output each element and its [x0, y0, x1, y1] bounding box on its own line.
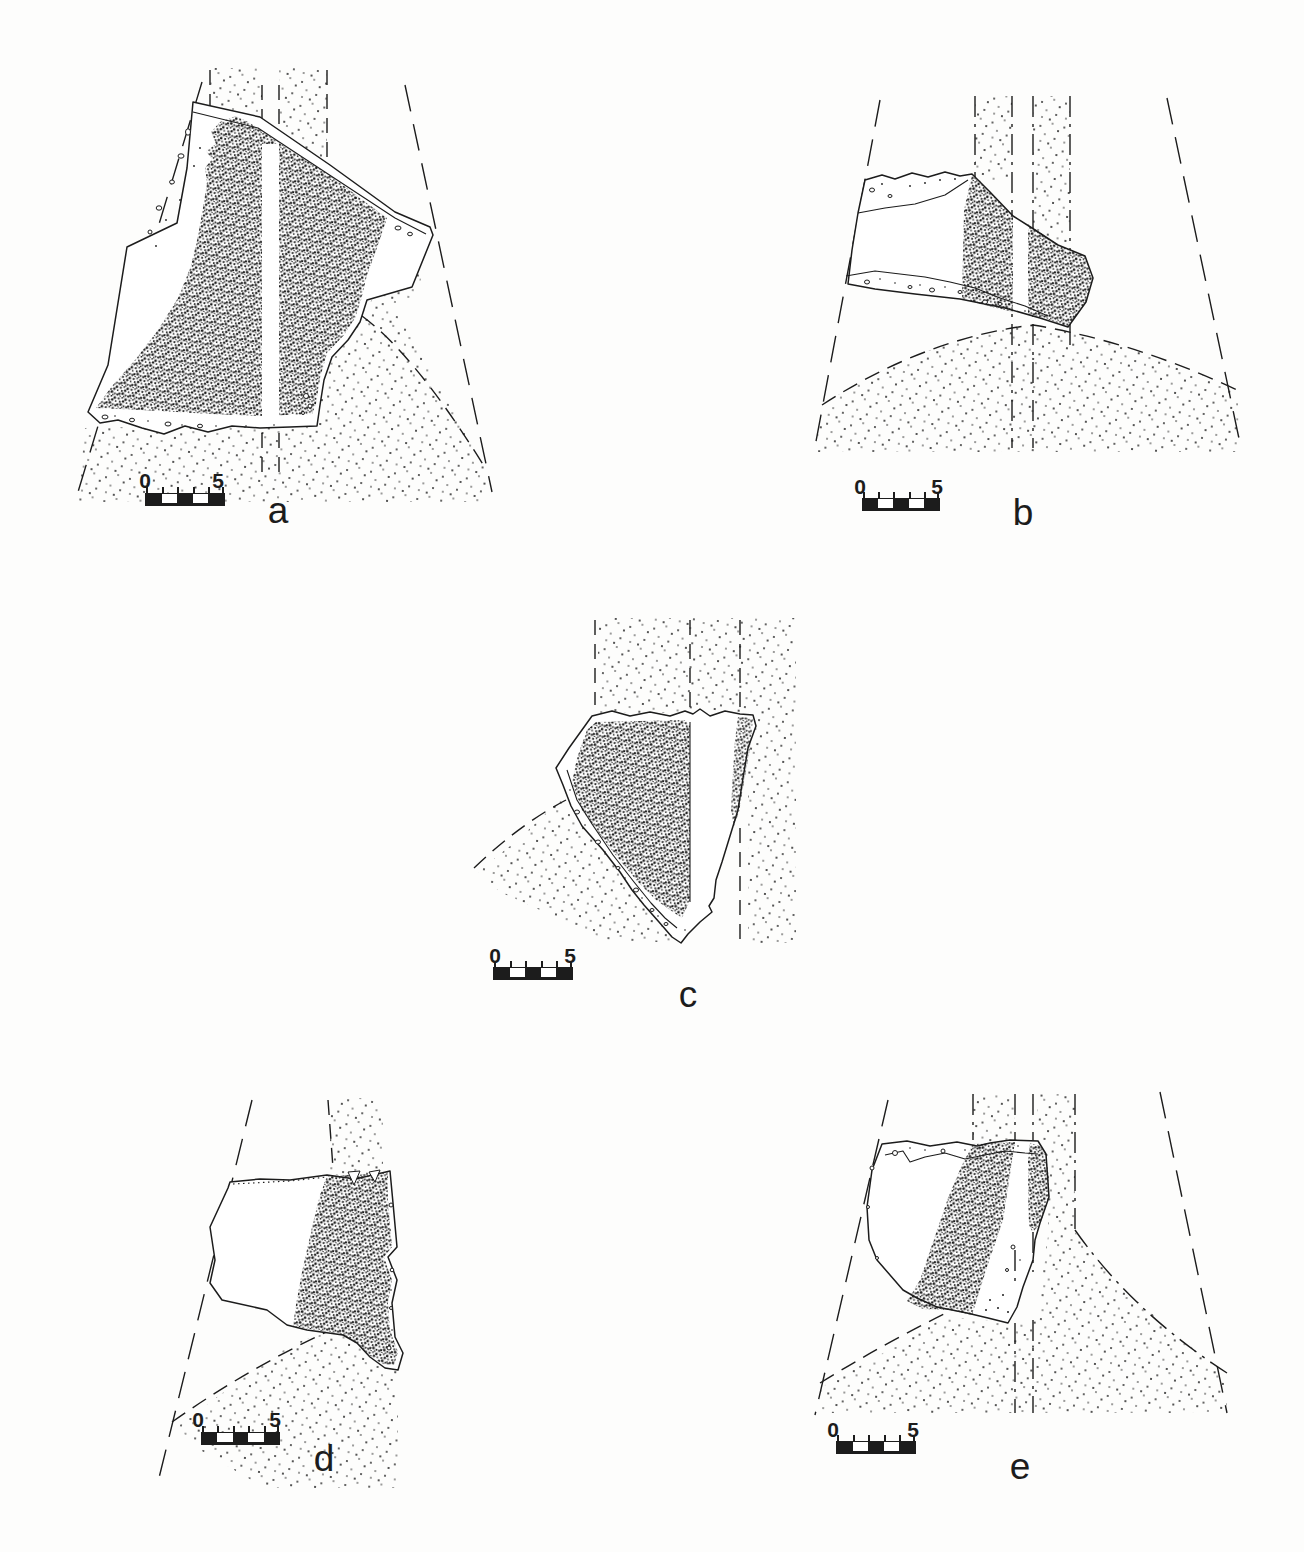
scale-segment [853, 1442, 869, 1451]
scale-segment [233, 1433, 248, 1442]
sherd-drawing-d [130, 1080, 420, 1510]
scale-segment [924, 499, 939, 508]
scale-tick [837, 1435, 839, 1442]
scale-segment [146, 494, 162, 503]
scale-segment [556, 968, 572, 977]
scale-tick [853, 1435, 855, 1442]
scale-tick [217, 1426, 219, 1433]
panel-label-a: a [260, 492, 296, 529]
scale-tick [193, 487, 195, 494]
scale-tick [541, 961, 543, 968]
sherd-drawing-b [800, 80, 1260, 560]
scale-bar [145, 493, 225, 506]
scale-segment [162, 494, 178, 503]
scale-tick [570, 961, 572, 968]
scale-tick [510, 961, 512, 968]
panel-label-b: b [1005, 494, 1041, 531]
scale-segment [177, 494, 193, 503]
scale-tick [868, 1435, 870, 1442]
scale-tick [899, 1435, 901, 1442]
scale-tick [937, 492, 939, 499]
scale-tick [208, 487, 210, 494]
scale-tick [494, 961, 496, 968]
panel-label-e: e [1002, 1448, 1038, 1485]
scale-tick [233, 1426, 235, 1433]
scale-tick [248, 1426, 250, 1433]
scale-segment [193, 494, 209, 503]
scale-zero-label: 0 [852, 476, 868, 497]
scale-segment [208, 494, 224, 503]
scale-tick [878, 492, 880, 499]
panel-c: 0 5 c [460, 610, 805, 1030]
scale-bar [201, 1432, 280, 1445]
scale-tick [884, 1435, 886, 1442]
scale-segment [868, 1442, 884, 1451]
scale-tick [222, 487, 224, 494]
sherd-drawing-a [60, 60, 510, 560]
scale-tick [913, 1435, 915, 1442]
scale-tick [924, 492, 926, 499]
scale-segment [510, 968, 526, 977]
scale-tick [556, 961, 558, 968]
panel-b: 0 5 b [800, 80, 1260, 560]
scale-tick [264, 1426, 266, 1433]
scale-five-label: 5 [267, 1409, 283, 1430]
panel-a: 0 5 a [60, 60, 510, 560]
scale-segment [878, 499, 893, 508]
scale-tick [202, 1426, 204, 1433]
scale-segment [264, 1433, 279, 1442]
scale-tick [525, 961, 527, 968]
painted-patch-e [1028, 1143, 1049, 1233]
scale-segment [541, 968, 557, 977]
scale-segment [863, 499, 878, 508]
scale-tick [177, 487, 179, 494]
scale-bar [836, 1441, 916, 1454]
scale-bar [493, 967, 573, 980]
scale-segment [909, 499, 924, 508]
scale-tick [162, 487, 164, 494]
scale-bar [862, 498, 940, 511]
scale-segment [837, 1442, 853, 1451]
scale-segment [217, 1433, 232, 1442]
scale-tick [909, 492, 911, 499]
scale-tick [277, 1426, 279, 1433]
panel-label-c: c [670, 976, 706, 1013]
panel-d: 0 5 d [130, 1080, 420, 1510]
panel-label-d: d [306, 1440, 342, 1477]
scale-segment [248, 1433, 263, 1442]
scale-zero-label: 0 [137, 470, 153, 491]
scale-tick [893, 492, 895, 499]
scale-tick [863, 492, 865, 499]
scale-segment [494, 968, 510, 977]
scale-segment [899, 1442, 915, 1451]
scale-tick [146, 487, 148, 494]
scale-segment [525, 968, 541, 977]
scale-segment [884, 1442, 900, 1451]
scale-segment [202, 1433, 217, 1442]
crack-gap-a [262, 144, 279, 416]
panel-e: 0 5 e [790, 1080, 1240, 1510]
scale-segment [893, 499, 908, 508]
